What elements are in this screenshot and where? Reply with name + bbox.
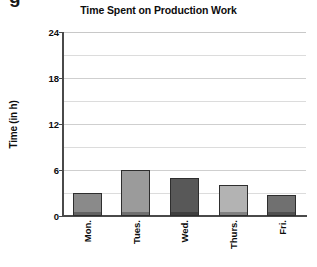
chart-title: Time Spent on Production Work <box>0 4 317 16</box>
bar-slot <box>267 32 296 216</box>
x-tick-label: Thurs. <box>228 220 239 249</box>
x-axis-labels: Mon.Tues.Wed.Thurs.Fri. <box>63 218 306 266</box>
x-label-slot: Tues. <box>112 218 161 266</box>
x-tick-label: Fri. <box>276 220 287 235</box>
bar-slot <box>170 32 199 216</box>
bar-tues[interactable] <box>121 170 150 216</box>
plot-area: 06121824 <box>63 32 306 216</box>
x-label-slot: Mon. <box>63 218 112 266</box>
x-tick-label: Wed. <box>179 220 190 243</box>
bar-slot <box>73 32 102 216</box>
bar-slot <box>121 32 150 216</box>
bar-thurs[interactable] <box>219 185 248 216</box>
x-tick-label: Tues. <box>130 220 141 244</box>
x-label-slot: Wed. <box>160 218 209 266</box>
x-tick-label: Mon. <box>82 220 93 242</box>
figure: g Time Spent on Production Work Time (in… <box>0 0 317 267</box>
y-tick-label: 12 <box>48 119 59 130</box>
bar-slot <box>219 32 248 216</box>
x-label-slot: Thurs. <box>209 218 258 266</box>
bar-fri[interactable] <box>267 195 296 216</box>
bar-wed[interactable] <box>170 178 199 216</box>
bar-mon[interactable] <box>73 193 102 216</box>
bar-series <box>63 32 306 216</box>
y-axis-label-text: Time (in h) <box>8 100 19 148</box>
y-tick-label: 24 <box>48 27 59 38</box>
y-tick-label: 18 <box>48 73 59 84</box>
x-label-slot: Fri. <box>257 218 306 266</box>
y-axis-label: Time (in h) <box>4 32 22 216</box>
